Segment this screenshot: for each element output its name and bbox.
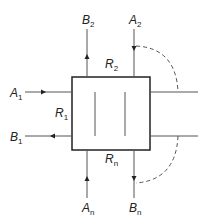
arrow-b1-icon <box>50 134 55 139</box>
label-b2: B2 <box>82 13 95 29</box>
label-r2: R2 <box>105 57 119 73</box>
label-a2: A2 <box>128 13 142 29</box>
arrow-a1-icon <box>41 90 46 95</box>
dashed-connector-top <box>136 46 178 92</box>
label-r1: R1 <box>55 106 69 122</box>
process-block <box>72 77 150 150</box>
dashed-connector-bottom <box>136 136 178 183</box>
arrow-bn-icon <box>132 176 137 181</box>
label-bn: Bn <box>129 201 141 217</box>
label-a1: A1 <box>9 86 23 102</box>
label-b1: B1 <box>10 130 23 146</box>
arrow-an-icon <box>85 176 90 181</box>
label-an: An <box>81 201 94 217</box>
arrow-a2-icon <box>132 46 137 51</box>
block-diagram: A1 B1 R1 B2 A2 R2 Rn An Bn <box>0 0 207 221</box>
label-rn: Rn <box>105 152 118 168</box>
arrow-b2-icon <box>85 54 90 59</box>
